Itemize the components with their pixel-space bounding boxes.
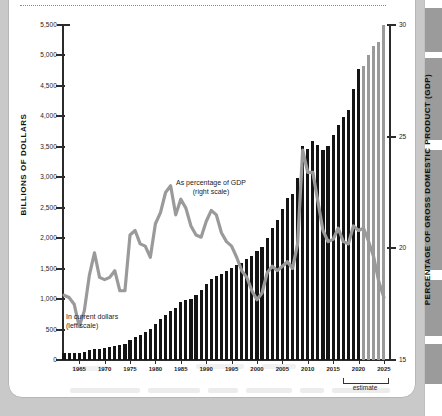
x-axis-tick bbox=[333, 360, 334, 364]
left-axis-tick-label: 3,500 bbox=[40, 143, 57, 150]
gdp-percent-polyline bbox=[64, 150, 384, 326]
x-axis-tick-label: 1965 bbox=[73, 366, 86, 372]
x-axis-tick bbox=[79, 360, 80, 364]
annotation-current-dollars-line1: In current dollars bbox=[66, 312, 118, 321]
annotation-percent-of-gdp-line2: (right scale) bbox=[176, 187, 246, 196]
annotation-percent-of-gdp-line1: As percentage of GDP bbox=[176, 178, 246, 187]
right-axis-tick-label: 25 bbox=[399, 133, 406, 140]
x-axis-tick bbox=[130, 360, 131, 364]
annotation-current-dollars-line2: (left scale) bbox=[66, 321, 118, 330]
x-axis-tick-label: 2020 bbox=[352, 366, 365, 372]
annotation-percent-of-gdp: As percentage of GDP (right scale) bbox=[176, 178, 246, 196]
left-axis-tick-label: 4,000 bbox=[40, 112, 57, 119]
x-axis-tick-label: 1970 bbox=[98, 366, 111, 372]
left-axis-tick-label: 4,500 bbox=[40, 82, 57, 89]
left-axis-tick-label: 3,000 bbox=[40, 173, 57, 180]
annotation-current-dollars: In current dollars (left scale) bbox=[66, 312, 118, 330]
x-axis-tick-label: 2000 bbox=[250, 366, 263, 372]
estimate-label: estimate bbox=[343, 384, 387, 391]
x-axis-tick bbox=[181, 360, 182, 364]
right-axis-tick-label: 15 bbox=[399, 356, 406, 363]
x-axis-tick-label: 2015 bbox=[326, 366, 339, 372]
left-axis-tick-label: 5,000 bbox=[40, 51, 57, 58]
x-axis-tick bbox=[105, 360, 106, 364]
x-axis-tick bbox=[308, 360, 309, 364]
x-axis-tick-label: 1980 bbox=[149, 366, 162, 372]
x-axis-tick bbox=[232, 360, 233, 364]
left-axis-tick-label: 2,000 bbox=[40, 234, 57, 241]
left-axis-tick-label: 500 bbox=[46, 326, 57, 333]
left-axis-tick-label: 1,500 bbox=[40, 265, 57, 272]
right-axis-tick-label: 30 bbox=[399, 21, 406, 28]
x-axis-tick bbox=[359, 360, 360, 364]
left-axis-tick-label: 0 bbox=[53, 356, 57, 363]
x-axis-tick-label: 1995 bbox=[225, 366, 238, 372]
x-axis-tick-label: 2025 bbox=[377, 366, 390, 372]
x-axis-tick-label: 2005 bbox=[276, 366, 289, 372]
x-axis-tick-label: 2010 bbox=[301, 366, 314, 372]
right-axis-title: PERCENTAGE OF GROSS DOMESTIC PRODUCT (GD… bbox=[423, 72, 432, 307]
left-axis-tick-label: 5,500 bbox=[40, 21, 57, 28]
left-axis-title: BILLIONS OF DOLLARS bbox=[19, 105, 28, 225]
right-axis-tick-label: 20 bbox=[399, 244, 406, 251]
x-axis-tick-label: 1975 bbox=[123, 366, 136, 372]
x-axis-tick-label: 1990 bbox=[200, 366, 213, 372]
left-axis-tick-label: 1,000 bbox=[40, 295, 57, 302]
x-axis-tick bbox=[206, 360, 207, 364]
x-axis-tick-label: 1985 bbox=[174, 366, 187, 372]
x-axis-tick bbox=[384, 360, 385, 364]
x-axis-tick bbox=[155, 360, 156, 364]
x-axis-tick bbox=[257, 360, 258, 364]
x-axis-tick bbox=[282, 360, 283, 364]
left-axis-tick-label: 2,500 bbox=[40, 204, 57, 211]
